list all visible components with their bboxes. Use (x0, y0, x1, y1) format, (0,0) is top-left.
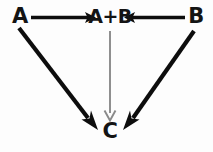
edge-a-to-c-line (19, 28, 88, 118)
diagram-canvas: A A+B B C (0, 0, 213, 152)
node-label-c: C (90, 121, 130, 142)
node-label-a: A (0, 6, 40, 27)
edge-a-to-c (19, 28, 98, 130)
edge-b-to-c-line (133, 31, 194, 118)
node-label-b: B (176, 6, 213, 27)
node-label-ab: A+B (80, 7, 140, 26)
edge-ab-to-c (105, 31, 116, 121)
edge-b-to-c (123, 31, 194, 130)
